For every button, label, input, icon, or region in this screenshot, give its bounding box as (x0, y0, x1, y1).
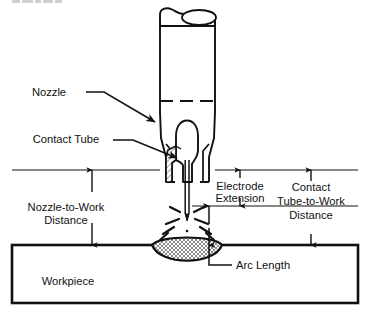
label-electrode-extension-line1: Electrode (216, 180, 263, 192)
gmaw-torch-diagram: Nozzle Contact Tube Nozzle-to-Work Dista… (0, 0, 370, 319)
label-contact-tube-to-work-line1: Contact (292, 181, 331, 193)
label-contact-tube-to-work-line2: Tube-to-Work (277, 195, 345, 207)
label-nozzle-to-work-distance-line2: Distance (44, 214, 88, 226)
label-contact-tube: Contact Tube (33, 133, 100, 145)
contact-tube-section-hatch (166, 146, 176, 182)
diagram-canvas: Nozzle Contact Tube Nozzle-to-Work Dista… (0, 0, 370, 319)
label-workpiece: Workpiece (42, 275, 95, 287)
label-arc-length: Arc Length (236, 259, 290, 271)
label-nozzle-to-work-distance-line1: Nozzle-to-Work (28, 201, 105, 213)
label-electrode-extension-line2: Extension (215, 192, 264, 204)
nozzle-leader (86, 92, 155, 122)
contact-tube (166, 121, 198, 183)
welding-arc (160, 207, 214, 240)
label-contact-tube-to-work-line3: Distance (289, 209, 333, 221)
label-nozzle: Nozzle (32, 86, 66, 98)
workpiece (12, 238, 358, 304)
cropped-top-text (12, 0, 62, 3)
